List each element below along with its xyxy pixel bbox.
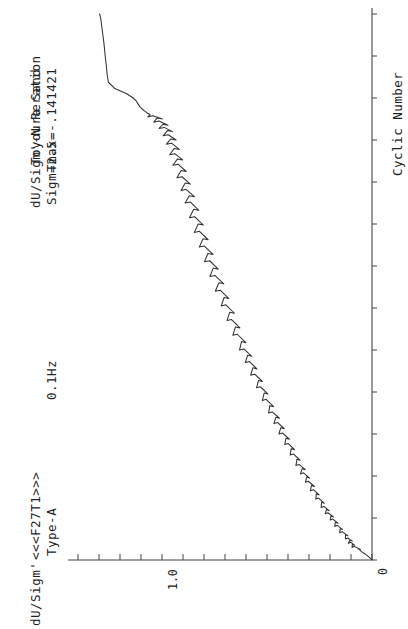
y-axis-title: dU/Sigm' bbox=[28, 562, 43, 626]
figure-type-label: Type-A bbox=[44, 508, 59, 556]
y-axis-ticks bbox=[78, 554, 372, 560]
y-tick-label-1.0: 1.0 bbox=[166, 569, 180, 590]
material-label: Toyoura Sand bbox=[28, 69, 43, 165]
figure-id-label: <<<F27T1>>> bbox=[28, 472, 43, 560]
origin-tick-label-0: 0 bbox=[376, 568, 390, 575]
x-axis-ticks bbox=[372, 14, 377, 560]
x-axis-title: Cyclic Number bbox=[390, 72, 405, 176]
chart-canvas bbox=[0, 0, 408, 629]
tmax-label: Tmax=-.141421 bbox=[44, 68, 59, 172]
data-series-line bbox=[99, 14, 372, 560]
figure-frequency-label: 0.1Hz bbox=[44, 360, 59, 400]
figure-page: <<<F27T1>>> dU/Sigm'-N Reration Type-A 0… bbox=[0, 0, 408, 629]
